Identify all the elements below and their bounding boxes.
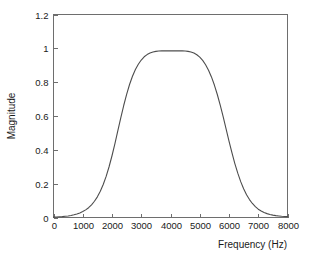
x-tick-label: 8000 xyxy=(278,220,299,231)
x-tick-label: 2000 xyxy=(102,220,123,231)
data-series-group xyxy=(54,51,288,217)
y-tick-label: 1.2 xyxy=(35,10,48,21)
x-tick-label: 0 xyxy=(52,220,57,231)
magnitude-response-chart: 010002000300040005000600070008000 00.20.… xyxy=(0,0,310,260)
x-tick-label: 6000 xyxy=(219,220,240,231)
y-axis-tick-labels: 00.20.40.60.811.2 xyxy=(35,10,48,224)
x-axis-title: Frequency (Hz) xyxy=(218,239,287,250)
x-tick-label: 3000 xyxy=(131,220,152,231)
x-tick-label: 5000 xyxy=(190,220,211,231)
magnitude-response-figure: 010002000300040005000600070008000 00.20.… xyxy=(0,0,310,260)
plot-frame xyxy=(54,15,288,218)
x-axis-tick-labels: 010002000300040005000600070008000 xyxy=(52,220,299,231)
magnitude-curve xyxy=(54,51,288,217)
plot-box-border xyxy=(54,15,288,218)
x-tick-label: 1000 xyxy=(73,220,94,231)
y-tick-label: 1 xyxy=(43,43,48,54)
x-tick-label: 7000 xyxy=(248,220,269,231)
y-tick-label: 0.2 xyxy=(35,179,48,190)
y-axis-title: Magnitude xyxy=(6,92,17,139)
x-axis-ticks xyxy=(55,214,289,218)
x-tick-label: 4000 xyxy=(161,220,182,231)
y-axis-ticks xyxy=(54,16,58,219)
y-tick-label: 0.6 xyxy=(35,111,48,122)
y-tick-label: 0.4 xyxy=(35,145,48,156)
y-tick-label: 0.8 xyxy=(35,77,48,88)
y-tick-label: 0 xyxy=(43,213,48,224)
